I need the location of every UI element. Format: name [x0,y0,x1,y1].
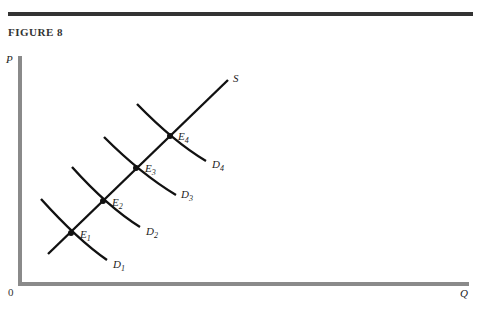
demand-label-4: D4 [211,158,224,173]
equilibrium-label-1: E1 [79,228,91,243]
y-axis-label: P [5,53,13,65]
origin-label: 0 [8,286,14,298]
x-axis-label: Q [460,287,468,299]
equilibrium-label-2: E2 [111,196,123,211]
supply-label: S [233,72,239,84]
equilibrium-point-4 [167,133,173,139]
equilibrium-point-2 [100,198,106,204]
demand-label-3: D3 [180,188,193,203]
supply-demand-diagram: P Q 0 S D1 D2 D3 D4 E1 E2 E3 E4 [0,0,497,321]
demand-label-2: D2 [145,225,158,240]
equilibrium-point-1 [68,230,74,236]
equilibrium-point-3 [133,165,139,171]
demand-label-1: D1 [112,258,125,273]
